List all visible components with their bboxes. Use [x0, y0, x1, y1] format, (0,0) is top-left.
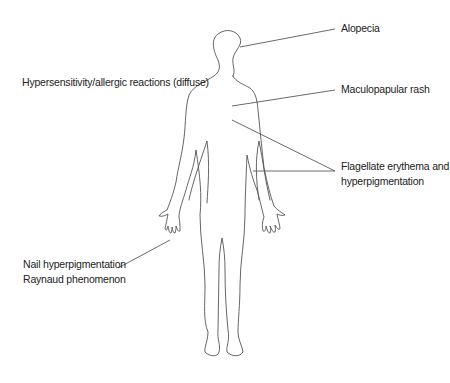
label-maculopapular: Maculopapular rash: [341, 82, 430, 97]
body-outline-svg: [0, 0, 450, 383]
label-hypersensitivity-text: Hypersensitivity/allergic reactions (dif…: [22, 75, 209, 90]
label-nail-line1: Nail hyperpigmentation: [23, 257, 126, 272]
label-flagellate-line2: hyperpigmentation: [341, 174, 449, 189]
label-nail-line2: Raynaud phenomenon: [23, 272, 126, 287]
label-nail: Nail hyperpigmentation Raynaud phenomeno…: [23, 257, 126, 287]
leader-alopecia: [240, 29, 335, 47]
right-inner-arm-line: [256, 141, 270, 200]
label-maculopapular-text: Maculopapular rash: [341, 82, 430, 97]
label-flagellate: Flagellate erythema and hyperpigmentatio…: [341, 159, 449, 189]
label-flagellate-line1: Flagellate erythema and: [341, 159, 449, 174]
leader-flagellate-1: [232, 120, 335, 171]
label-alopecia: Alopecia: [341, 21, 380, 36]
label-alopecia-text: Alopecia: [341, 21, 380, 36]
body-diagram: Alopecia Hypersensitivity/allergic react…: [0, 0, 450, 383]
label-hypersensitivity: Hypersensitivity/allergic reactions (dif…: [22, 75, 209, 90]
leader-maculopapular: [232, 90, 335, 106]
